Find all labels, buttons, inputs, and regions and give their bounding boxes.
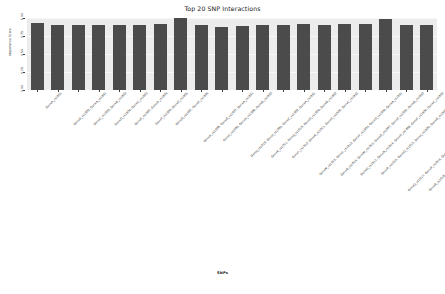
bar	[379, 19, 392, 90]
x-axis-tick-label: GeneA_rs1001	[46, 92, 64, 110]
bar	[133, 25, 146, 90]
x-axis-label: SNPs	[0, 271, 445, 275]
bar	[318, 25, 331, 90]
x-axis-tick-label: GeneN_rs1014, GeneM_rs1013, GeneG_rs1007…	[340, 92, 425, 177]
bar	[236, 26, 249, 90]
bar	[113, 25, 126, 90]
bar	[277, 25, 290, 90]
y-axis-tick-label: 1.00	[20, 13, 24, 20]
bar	[338, 24, 351, 90]
gridline	[27, 36, 437, 37]
bar	[174, 18, 187, 90]
bar	[400, 25, 413, 90]
bar	[215, 27, 228, 90]
gridline	[27, 72, 437, 73]
bar	[154, 24, 167, 90]
plot-area	[27, 18, 437, 90]
bar	[51, 25, 64, 90]
bar	[359, 24, 372, 90]
gridline	[27, 18, 437, 19]
y-axis-tick-label: 0.50	[20, 49, 24, 56]
bar	[92, 25, 105, 90]
bar	[72, 25, 85, 90]
x-axis-tick-label: GeneB_rs1002, GeneA_rs1001	[73, 92, 107, 126]
y-axis-tick-group: 0.000.250.500.751.00	[0, 18, 28, 90]
chart-figure: Top 20 SNP Interactions Importance Score…	[0, 0, 445, 294]
bar	[297, 24, 310, 90]
y-axis-tick-label: 0.25	[20, 67, 24, 74]
y-axis-tick-label: 0.75	[20, 31, 24, 38]
bar	[31, 23, 44, 90]
bar	[256, 25, 269, 90]
chart-title: Top 20 SNP Interactions	[0, 5, 445, 12]
gridline	[27, 54, 437, 55]
x-axis-tick-labels: GeneA_rs1001GeneB_rs1002, GeneA_rs1001Ge…	[27, 92, 437, 272]
bar	[195, 25, 208, 90]
y-axis-tick-label: 0.00	[20, 85, 24, 92]
bar	[420, 25, 433, 90]
